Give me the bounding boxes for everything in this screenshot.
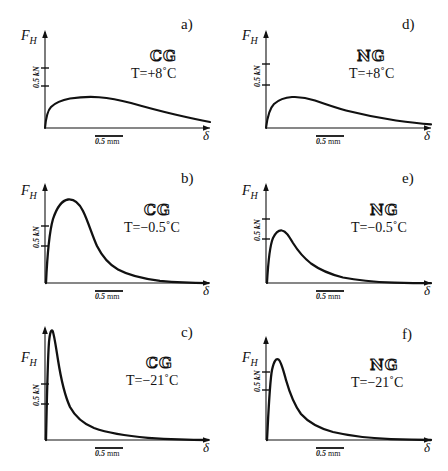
panel-b: b) CG T=−0.5˚C FH 0.5 kN 0.5 mm δ	[0, 157, 224, 312]
y-axis-unit-a: 0.5 kN	[32, 66, 41, 88]
curve-a	[45, 97, 210, 128]
temperature-label-d: T=+8˚C	[349, 66, 394, 82]
y-axis-arrowhead	[263, 30, 269, 38]
material-label-e: NG	[370, 201, 399, 219]
y-axis-unit-b: 0.5 kN	[32, 226, 41, 248]
y-axis-label-f: FH	[242, 350, 258, 368]
panel-d: d) NG T=+8˚C FH 0.5 kN 0.5 mm δ	[224, 0, 448, 157]
x-axis-unit-e: 0.5 mm	[316, 292, 340, 301]
panel-letter-b: b)	[181, 170, 194, 187]
x-axis-symbol-b: δ	[203, 283, 209, 299]
temperature-label-b: T=−0.5˚C	[124, 220, 180, 236]
y-axis-arrowhead	[42, 183, 48, 191]
material-label-c: CG	[146, 354, 173, 372]
y-axis-arrowhead	[263, 183, 269, 191]
figure-panel-grid: a) CG T=+8˚C FH 0.5 kN 0.5 mm δ d) NG T=…	[0, 0, 448, 471]
x-axis-unit-c: 0.5 mm	[95, 449, 119, 458]
curve-f	[267, 359, 431, 440]
panel-letter-d: d)	[402, 16, 415, 33]
y-axis-unit-c: 0.5 kN	[32, 384, 41, 406]
x-axis-symbol-a: δ	[203, 128, 209, 144]
y-axis-unit-f: 0.5 kN	[253, 370, 262, 392]
y-axis-unit-e: 0.5 kN	[253, 219, 262, 241]
y-axis-arrowhead	[42, 326, 48, 334]
x-axis-unit-d: 0.5 mm	[316, 137, 340, 146]
x-axis-unit-b: 0.5 mm	[95, 292, 119, 301]
y-axis-label-a: FH	[21, 28, 37, 46]
x-axis-symbol-c: δ	[203, 440, 209, 456]
x-axis-symbol-e: δ	[424, 283, 430, 299]
curve-d	[266, 97, 431, 128]
x-axis-symbol-d: δ	[424, 128, 430, 144]
y-axis-arrowhead	[263, 336, 269, 344]
panel-letter-e: e)	[402, 170, 414, 187]
temperature-label-c: T=−21˚C	[126, 373, 178, 389]
panel-f: f) NG T=−21˚C FH 0.5 kN 0.5 mm δ	[224, 312, 448, 471]
panel-e: e) NG T=−0.5˚C FH 0.5 kN 0.5 mm δ	[224, 157, 448, 312]
material-label-a: CG	[150, 47, 177, 65]
material-label-f: NG	[370, 356, 399, 374]
y-axis-unit-d: 0.5 kN	[253, 65, 262, 87]
y-axis-label-c: FH	[21, 350, 37, 368]
panel-letter-f: f)	[402, 326, 412, 343]
curve-e	[267, 230, 431, 283]
y-axis-label-e: FH	[242, 183, 258, 201]
curve-b	[46, 199, 208, 283]
x-axis-unit-a: 0.5 mm	[95, 137, 119, 146]
x-axis-symbol-f: δ	[424, 440, 430, 456]
temperature-label-f: T=−21˚C	[351, 375, 403, 391]
y-axis-label-d: FH	[242, 28, 258, 46]
y-axis-arrowhead	[42, 30, 48, 38]
x-axis-unit-f: 0.5 mm	[316, 449, 340, 458]
material-label-b: CG	[144, 201, 171, 219]
panel-a: a) CG T=+8˚C FH 0.5 kN 0.5 mm δ	[0, 0, 224, 157]
panel-letter-a: a)	[181, 16, 193, 33]
material-label-d: NG	[357, 47, 386, 65]
panel-c: c) CG T=−21˚C FH 0.5 kN 0.5 mm δ	[0, 312, 224, 471]
panel-letter-c: c)	[181, 324, 193, 341]
temperature-label-e: T=−0.5˚C	[351, 220, 407, 236]
y-axis-label-b: FH	[21, 183, 37, 201]
temperature-label-a: T=+8˚C	[131, 66, 176, 82]
